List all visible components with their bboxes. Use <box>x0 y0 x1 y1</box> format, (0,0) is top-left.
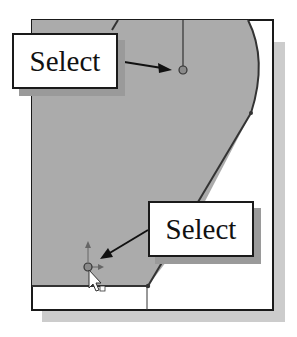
select-label-top-text: Select <box>30 45 101 78</box>
select-point-top[interactable] <box>179 66 187 74</box>
select-label-bottom-text: Select <box>166 213 237 246</box>
vertex-arc-end[interactable] <box>249 111 253 115</box>
sketch-diagram: Select Select <box>0 0 297 337</box>
vertex-bottom-right[interactable] <box>146 284 150 288</box>
select-label-bottom: Select <box>148 201 254 257</box>
select-point-bottom[interactable] <box>84 263 92 271</box>
select-label-top: Select <box>12 33 118 89</box>
